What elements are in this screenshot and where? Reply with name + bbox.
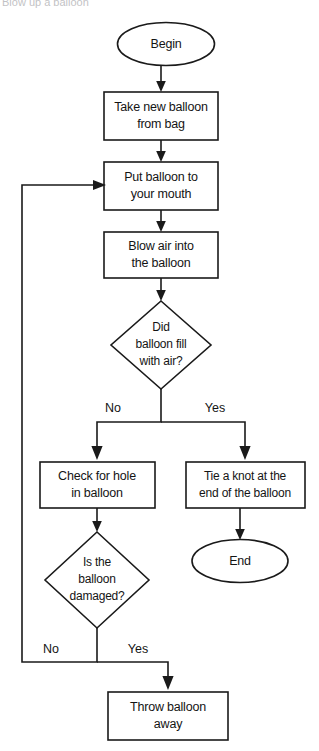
node-damaged-label-line2: balloon: [78, 572, 115, 586]
node-begin-label: Begin: [151, 37, 182, 51]
node-end-label: End: [229, 554, 251, 568]
arrow-head-icon: [91, 446, 102, 460]
node-tie-label-line1: Tie a knot at the: [204, 469, 287, 483]
take-box: [104, 92, 218, 140]
node-filled-label-line2: balloon fill: [136, 337, 187, 351]
edge-label-damaged-yes: Yes: [128, 642, 148, 656]
edge-label-damaged-no: No: [43, 642, 59, 656]
node-take-label-line2: from bag: [137, 117, 185, 131]
edge-check-to-damaged: [92, 508, 102, 532]
node-put-label-line2: your mouth: [131, 187, 192, 201]
node-put[interactable]: Put balloon to your mouth: [104, 162, 218, 210]
node-blow-label-line2: the balloon: [132, 256, 191, 270]
flowchart-canvas: Begin Take new balloon from bag Put ball…: [0, 0, 319, 751]
node-filled-label-line1: Did: [152, 320, 169, 334]
edge-line: [97, 662, 168, 678]
node-throw[interactable]: Throw balloon away: [108, 692, 228, 740]
node-end[interactable]: End: [192, 540, 288, 583]
node-take-label-line1: Take new balloon: [114, 100, 208, 114]
node-tie-label-line2: end of the balloon: [199, 486, 291, 500]
arrow-head-icon: [235, 529, 245, 540]
node-put-label-line1: Put balloon to: [124, 170, 198, 184]
node-filled-label-line3: with air?: [139, 354, 183, 368]
edge-line: [161, 422, 245, 448]
node-blow[interactable]: Blow air into the balloon: [104, 232, 218, 278]
edge-tie-to-end: [235, 508, 245, 540]
arrow-head-icon: [156, 221, 166, 232]
arrow-head-icon: [156, 151, 166, 162]
edge-blow-to-filled: [156, 278, 166, 301]
edge-begin-to-take: [156, 66, 166, 92]
node-check-label-line2: in balloon: [71, 486, 123, 500]
edge-filled-no: No: [91, 389, 161, 460]
edge-filled-yes: Yes: [161, 401, 251, 460]
node-tie[interactable]: Tie a knot at the end of the balloon: [186, 462, 305, 508]
edge-take-to-put: [156, 140, 166, 162]
throw-box: [108, 692, 228, 740]
node-damaged[interactable]: Is the balloon damaged?: [45, 532, 149, 628]
arrow-head-icon: [239, 446, 250, 460]
arrow-head-icon: [156, 290, 166, 301]
arrow-head-icon: [156, 81, 166, 92]
edge-put-to-blow: [156, 210, 166, 232]
edge-label-filled-yes: Yes: [205, 401, 225, 415]
edge-line: [97, 389, 161, 448]
arrow-head-icon: [162, 676, 173, 690]
edge-label-filled-no: No: [105, 401, 121, 415]
node-throw-label-line1: Throw balloon: [130, 700, 206, 714]
node-begin[interactable]: Begin: [118, 23, 215, 66]
arrow-head-icon: [92, 521, 102, 532]
put-box: [104, 162, 218, 210]
node-throw-label-line2: away: [154, 717, 183, 731]
node-check-label-line1: Check for hole: [58, 469, 136, 483]
node-damaged-label-line3: damaged?: [69, 589, 125, 603]
flowchart-page: Blow up a balloon Begin Take new balloon…: [0, 0, 319, 751]
node-take[interactable]: Take new balloon from bag: [104, 92, 218, 140]
edge-damaged-yes: Yes: [97, 642, 174, 690]
node-blow-label-line1: Blow air into: [128, 239, 194, 253]
node-filled[interactable]: Did balloon fill with air?: [111, 301, 211, 389]
node-damaged-label-line1: Is the: [83, 555, 112, 569]
node-check[interactable]: Check for hole in balloon: [40, 462, 155, 508]
